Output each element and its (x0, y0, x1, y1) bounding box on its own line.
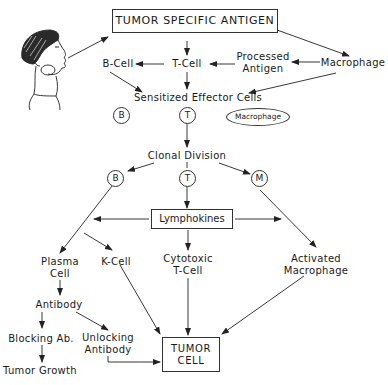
macrophage-label: Macrophage (321, 57, 386, 69)
edge-m-activated (260, 190, 316, 247)
cytotoxic-t-cell-label-2: T-Cell (173, 265, 202, 277)
clonal-division-label: Clonal Division (148, 150, 226, 162)
t-cell-circle: T (179, 107, 196, 124)
antibody-label: Antibody (35, 299, 82, 311)
plasma-cell-label-1: Plasma (41, 256, 79, 268)
blocking-ab-label: Blocking Ab. (8, 333, 74, 345)
b-cell-circle-2: B (107, 170, 124, 187)
hair-icon (22, 30, 59, 64)
unlocking-antibody-label-1: Unlocking (82, 332, 134, 344)
activated-macrophage-label-2: Macrophage (284, 265, 349, 277)
edge-child-antigen (68, 37, 108, 58)
tumor-cell-box: TUMOR CELL (162, 337, 220, 372)
unlocking-antibody-label-2: Antibody (84, 344, 131, 356)
t-cell-circle-2: T (179, 170, 196, 187)
sensitized-effector-cells-label: Sensitized Effector Cells (134, 92, 262, 104)
tumor-specific-antigen-box: TUMOR SPECIFIC ANTIGEN (112, 9, 278, 33)
edge-bcell-sensitized (110, 72, 142, 92)
k-cell-label: K-Cell (101, 256, 131, 268)
edge-clonal-b (128, 163, 154, 171)
edge-unlocking-tumor (108, 356, 160, 362)
edge-clonal-m (219, 163, 250, 174)
diagram-canvas: TUMOR SPECIFIC ANTIGEN Lymphokines TUMOR… (0, 0, 388, 385)
b-cell-circle: B (113, 107, 130, 124)
activated-macrophage-label-1: Activated (291, 253, 341, 265)
macrophage-circle: M (251, 170, 268, 187)
tumor-cell-line2: CELL (163, 355, 219, 367)
edges (42, 26, 349, 362)
lymphokines-box: Lymphokines (151, 209, 233, 229)
child-illustration (22, 30, 66, 110)
plasma-cell-label-2: Cell (50, 268, 70, 280)
edge-branch-kcell (84, 233, 112, 250)
tumor-growth-label: Tumor Growth (3, 365, 77, 377)
edge-macrophage-sensitized (249, 73, 336, 93)
edge-antibody-unlocking (76, 312, 108, 330)
b-cell-label: B-Cell (103, 58, 134, 70)
edge-activated-tumor (222, 276, 304, 334)
edge-kcell-tumor (120, 265, 160, 334)
t-cell-label: T-Cell (172, 58, 201, 70)
processed-antigen-label-1: Processed (236, 51, 289, 63)
tumor-cell-line1: TUMOR (163, 343, 219, 355)
neck-tumor-icon (41, 65, 55, 75)
macrophage-ellipse: Macrophage (226, 108, 290, 126)
cytotoxic-t-cell-label-1: Cytotoxic (163, 253, 213, 265)
processed-antigen-label-2: Antigen (243, 63, 284, 75)
edge-b-plasma (60, 186, 112, 253)
